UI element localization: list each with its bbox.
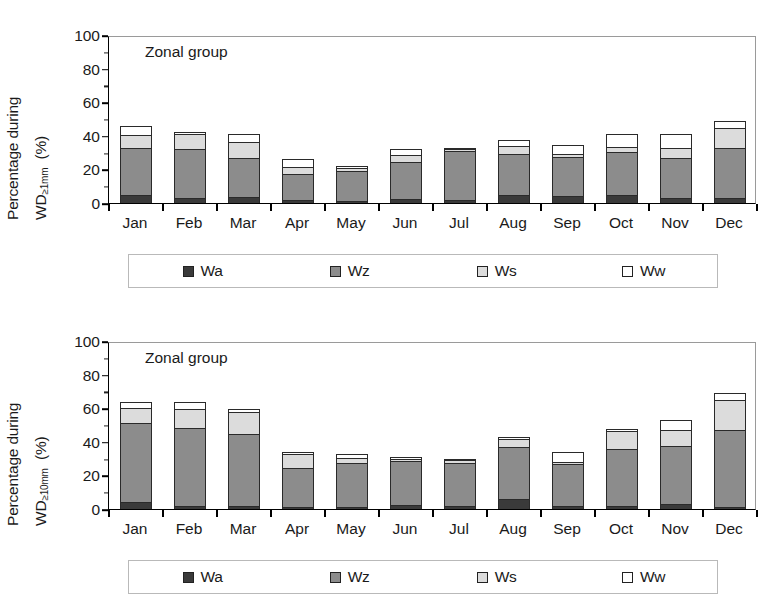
bar-segment-wa [660, 504, 692, 509]
y-tick-label: 80 [83, 367, 100, 385]
legend-item-ws[interactable]: Ws [423, 263, 570, 279]
bar-segment-ws [498, 146, 530, 154]
bar-segment-wz [498, 447, 530, 499]
y-axis-title-subscript: ≥10mm [39, 468, 50, 500]
bar-apr[interactable] [282, 452, 314, 509]
x-tick-label-may: May [336, 520, 365, 538]
x-tick-mark [324, 204, 326, 211]
x-tick-mark [756, 204, 758, 211]
bar-dec[interactable] [714, 121, 746, 203]
bar-segment-ww [228, 134, 260, 142]
bar-segment-wz [282, 174, 314, 200]
bar-segment-ws [714, 400, 746, 430]
bars-bottom [109, 343, 755, 509]
panel-bottom: Percentage during WD≥10mm (%) 0204060801… [0, 312, 773, 603]
bar-jan[interactable] [120, 402, 152, 510]
bar-segment-wa [336, 507, 368, 509]
bar-segment-ww [660, 134, 692, 147]
bar-aug[interactable] [498, 140, 530, 203]
panel-top: Percentage during WD≥1mm (%) 02040608010… [0, 6, 773, 301]
bar-segment-ws [390, 155, 422, 162]
x-tick-label-jan: Jan [123, 214, 148, 232]
plot-area-top: Zonal group [108, 36, 756, 204]
bar-jul[interactable] [444, 459, 476, 509]
bar-nov[interactable] [660, 134, 692, 203]
bar-feb[interactable] [174, 402, 206, 509]
bar-segment-wa [498, 499, 530, 509]
x-tick-mark [378, 510, 380, 517]
bar-dec[interactable] [714, 393, 746, 509]
bar-jul[interactable] [444, 148, 476, 203]
bar-oct[interactable] [606, 134, 638, 203]
bar-segment-ww [282, 159, 314, 167]
x-tick-label-dec: Dec [715, 520, 743, 538]
bar-oct[interactable] [606, 429, 638, 509]
bar-segment-ws [606, 431, 638, 449]
bar-segment-wa [228, 197, 260, 203]
legend-swatch-wa-icon [183, 572, 194, 583]
legend-item-wa[interactable]: Wa [129, 569, 276, 585]
bar-segment-ww [120, 126, 152, 135]
bar-segment-wa [120, 195, 152, 203]
x-tick-mark [648, 204, 650, 211]
bar-feb[interactable] [174, 132, 206, 203]
y-axis-title-main: WD [32, 195, 49, 220]
x-tick-mark [378, 204, 380, 211]
x-tick-label-dec: Dec [715, 214, 743, 232]
x-tick-label-aug: Aug [499, 520, 527, 538]
legend-bottom: WaWzWsWw [128, 560, 718, 594]
bar-mar[interactable] [228, 409, 260, 509]
x-tick-mark [648, 510, 650, 517]
bar-segment-ww [714, 393, 746, 400]
bar-aug[interactable] [498, 437, 530, 509]
bar-jan[interactable] [120, 126, 152, 203]
legend-item-ww[interactable]: Ww [570, 263, 717, 279]
bar-segment-wz [390, 461, 422, 505]
y-tick-label: 0 [91, 501, 100, 519]
y-tick-label: 60 [83, 94, 100, 112]
x-tick-mark [540, 510, 542, 517]
x-tick-mark [216, 204, 218, 211]
bar-nov[interactable] [660, 420, 692, 509]
x-tick-mark [540, 204, 542, 211]
legend-item-wz[interactable]: Wz [276, 569, 423, 585]
legend-item-wa[interactable]: Wa [129, 263, 276, 279]
y-tick-label: 40 [83, 434, 100, 452]
bar-jun[interactable] [390, 457, 422, 509]
x-tick-mark [270, 510, 272, 517]
bar-segment-wa [174, 506, 206, 509]
y-axis-ticks-top: 020406080100 [60, 36, 108, 204]
chart-top: Percentage during WD≥1mm (%) 02040608010… [0, 6, 773, 236]
bar-segment-wz [660, 446, 692, 504]
bar-segment-wz [174, 149, 206, 198]
legend-label: Ww [640, 569, 665, 585]
x-tick-label-sep: Sep [553, 520, 581, 538]
x-tick-mark [432, 510, 434, 517]
bar-mar[interactable] [228, 134, 260, 203]
bar-may[interactable] [336, 166, 368, 203]
bar-apr[interactable] [282, 159, 314, 203]
figure: Percentage during WD≥1mm (%) 02040608010… [0, 0, 773, 603]
x-tick-label-jun: Jun [393, 214, 418, 232]
legend-item-wz[interactable]: Wz [276, 263, 423, 279]
x-axis-top: JanFebMarAprMayJunJulAugSepOctNovDec [108, 204, 756, 238]
x-tick-mark [162, 510, 164, 517]
bar-segment-wa [390, 199, 422, 203]
legend-item-ww[interactable]: Ww [570, 569, 717, 585]
x-tick-mark [486, 510, 488, 517]
bar-segment-ww [552, 452, 584, 462]
x-tick-label-sep: Sep [553, 214, 581, 232]
legend-swatch-ww-icon [622, 572, 633, 583]
bar-segment-wz [120, 148, 152, 195]
bar-segment-ws [120, 408, 152, 423]
bar-may[interactable] [336, 454, 368, 509]
bar-sep[interactable] [552, 452, 584, 509]
bar-segment-wa [606, 195, 638, 203]
bar-sep[interactable] [552, 145, 584, 203]
bar-jun[interactable] [390, 149, 422, 203]
bar-segment-wz [552, 157, 584, 196]
bar-segment-wa [390, 505, 422, 509]
bar-segment-ws [660, 430, 692, 446]
legend-item-ws[interactable]: Ws [423, 569, 570, 585]
bar-segment-ws [120, 135, 152, 148]
